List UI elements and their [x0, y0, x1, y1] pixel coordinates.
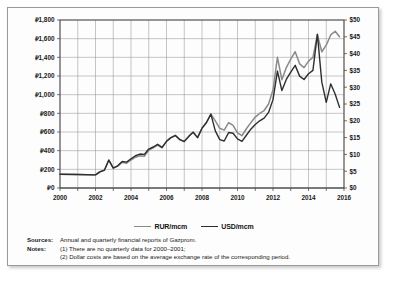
legend-swatch-usd-icon [201, 226, 218, 227]
y-axis-tick-label: ₽1,200 [35, 72, 55, 80]
x-axis-tick-label: 2010 [230, 194, 245, 201]
y2-axis-tick-label: $50 [350, 16, 361, 24]
legend-item-rur: RUR/mcm [134, 223, 187, 230]
chart-legend: RUR/mcm USD/mcm [8, 218, 380, 234]
y2-axis-tick-label: $0 [350, 184, 358, 192]
x-axis-tick-label: 2006 [159, 194, 174, 201]
line-chart-svg: ₽0₽200₽400₽600₽800₽1,000₽1,200₽1,400₽1,6… [8, 8, 380, 220]
y2-axis-tick-label: $10 [350, 151, 361, 159]
y2-axis-tick-label: $30 [350, 84, 361, 92]
chart-figure: ₽0₽200₽400₽600₽800₽1,000₽1,200₽1,400₽1,6… [0, 0, 393, 282]
series-line-rur [60, 31, 340, 175]
x-axis-tick-label: 2004 [124, 194, 139, 201]
y2-axis-tick-label: $15 [350, 134, 361, 142]
legend-item-usd: USD/mcm [201, 223, 253, 230]
y2-axis-tick-label: $5 [350, 168, 358, 176]
y2-axis-tick-label: $35 [350, 67, 361, 75]
sources-value: Annual and quarterly financial reports o… [60, 236, 367, 245]
y2-axis-tick-label: $40 [350, 50, 361, 58]
chart-frame: ₽0₽200₽400₽600₽800₽1,000₽1,200₽1,400₽1,6… [7, 7, 379, 266]
notes-row-1: Notes: (1) There are no quarterly data f… [27, 245, 367, 254]
y-axis-tick-label: ₽0 [47, 184, 55, 191]
note-item-1: (1) There are no quarterly data for 2000… [60, 245, 367, 254]
y-axis-tick-label: ₽400 [40, 147, 55, 154]
y2-axis-tick-label: $20 [350, 117, 361, 125]
x-axis-tick-label: 2014 [301, 194, 316, 201]
chart-footnotes: Sources: Annual and quarterly financial … [27, 236, 367, 262]
y-axis-tick-label: ₽200 [40, 166, 55, 173]
note-item-2: (2) Dollar costs are based on the averag… [60, 253, 367, 262]
x-axis-tick-label: 2008 [195, 194, 210, 201]
y-axis-tick-label: ₽1,800 [35, 16, 55, 24]
y2-axis-tick-label: $45 [350, 33, 361, 41]
sources-label: Sources: [27, 236, 60, 245]
y-axis-tick-label: ₽1,400 [35, 54, 55, 62]
y-axis-tick-label: ₽800 [40, 110, 55, 117]
y2-axis-tick-label: $25 [350, 100, 361, 108]
legend-label-rur: RUR/mcm [154, 223, 187, 230]
sources-row: Sources: Annual and quarterly financial … [27, 236, 367, 245]
x-axis-tick-label: 2000 [53, 194, 68, 201]
x-axis-tick-label: 2012 [266, 194, 281, 201]
x-axis-tick-label: 2002 [88, 194, 103, 201]
legend-swatch-rur-icon [134, 226, 151, 227]
legend-label-usd: USD/mcm [221, 223, 253, 230]
y-axis-tick-label: ₽1,600 [35, 35, 55, 43]
series-line-usd [60, 34, 340, 175]
y-axis-tick-label: ₽600 [40, 128, 55, 135]
y-axis-tick-label: ₽1,000 [35, 91, 55, 99]
notes-label: Notes: [27, 245, 60, 254]
x-axis-tick-label: 2016 [337, 194, 352, 201]
plot-area: ₽0₽200₽400₽600₽800₽1,000₽1,200₽1,400₽1,6… [8, 8, 380, 220]
